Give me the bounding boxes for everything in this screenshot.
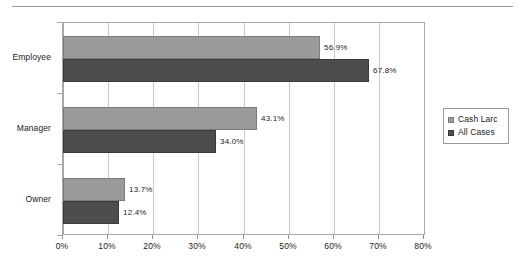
value-axis-tick-70pct (378, 235, 379, 239)
value-tick-label-0pct: 0% (46, 242, 78, 251)
bar-value-label-employee-all-cases: 67.8% (373, 67, 397, 75)
plot-area: 56.9%67.8%43.1%34.0%13.7%12.4% (62, 22, 425, 235)
category-label-owner: Owner (25, 195, 51, 204)
value-axis-tick-30pct (197, 235, 198, 239)
value-tick-label-30pct: 30% (181, 242, 213, 251)
gridline-80pct (424, 23, 425, 234)
value-tick-label-40pct: 40% (227, 242, 259, 251)
legend-label-cash-larc: Cash Larc (458, 115, 498, 124)
value-tick-label-80pct: 80% (407, 242, 439, 251)
legend-item-cash-larc: Cash Larc (448, 113, 504, 126)
bar-value-label-owner-all-cases: 12.4% (123, 209, 147, 217)
value-axis-tick-80pct (423, 235, 424, 239)
value-axis-ticks (62, 235, 425, 240)
category-axis-tick-1 (57, 93, 62, 94)
bar-employee-all-cases (63, 59, 369, 82)
category-axis-ticks (57, 22, 63, 235)
value-axis-tick-50pct (288, 235, 289, 239)
bar-value-label-employee-cash-larc: 56.9% (324, 44, 348, 52)
value-axis-tick-40pct (243, 235, 244, 239)
bar-manager-cash-larc (63, 107, 257, 130)
category-axis-tick-2 (57, 164, 62, 165)
legend-swatch-all-cases (448, 130, 454, 136)
value-tick-label-50pct: 50% (272, 242, 304, 251)
bar-value-label-manager-cash-larc: 43.1% (261, 115, 285, 123)
category-label-manager: Manager (17, 124, 51, 133)
value-tick-label-60pct: 60% (317, 242, 349, 251)
bar-value-label-manager-all-cases: 34.0% (220, 138, 244, 146)
value-axis-tick-20pct (152, 235, 153, 239)
value-tick-label-70pct: 70% (362, 242, 394, 251)
value-axis-tick-0pct (62, 235, 63, 239)
value-tick-label-10pct: 10% (91, 242, 123, 251)
legend-swatch-cash-larc (448, 117, 454, 123)
category-label-employee: Employee (12, 53, 51, 62)
bar-manager-all-cases (63, 130, 216, 153)
legend-item-all-cases: All Cases (448, 126, 504, 139)
category-axis-tick-0 (57, 22, 62, 23)
value-tick-label-20pct: 20% (136, 242, 168, 251)
bar-employee-cash-larc (63, 36, 320, 59)
bar-owner-cash-larc (63, 178, 125, 201)
horizontal-bar-chart: 56.9%67.8%43.1%34.0%13.7%12.4% EmployeeM… (0, 0, 525, 264)
value-axis-tick-10pct (107, 235, 108, 239)
bar-owner-all-cases (63, 201, 119, 224)
bar-value-label-owner-cash-larc: 13.7% (129, 186, 153, 194)
chart-legend: Cash Larc All Cases (443, 108, 509, 144)
legend-label-all-cases: All Cases (458, 128, 495, 137)
bar-series-container: 56.9%67.8%43.1%34.0%13.7%12.4% (63, 23, 424, 234)
value-axis-tick-60pct (333, 235, 334, 239)
